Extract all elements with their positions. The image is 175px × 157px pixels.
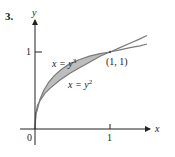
intersection-point bbox=[109, 51, 111, 53]
curve-label-squared: x = y2 bbox=[67, 78, 93, 90]
x-axis-label: x bbox=[154, 123, 160, 134]
intersection-label: (1, 1) bbox=[106, 56, 128, 68]
x-tick-label: 1 bbox=[107, 132, 112, 143]
origin-label: 0 bbox=[27, 132, 32, 143]
problem-number: 3. bbox=[5, 10, 14, 22]
y-axis-label: y bbox=[31, 7, 37, 18]
y-tick-label: 1 bbox=[26, 46, 31, 57]
diagram: 3. y x 0 1 1 x = y3 x = y2 (1, 1) bbox=[0, 0, 175, 157]
